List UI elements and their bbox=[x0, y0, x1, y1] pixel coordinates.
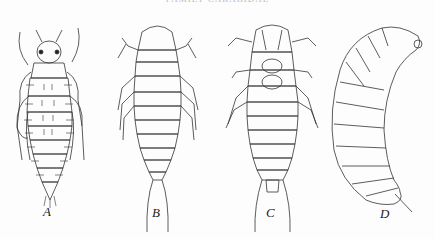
figure-label-b: B bbox=[152, 205, 160, 221]
larva-d-drawing bbox=[332, 27, 422, 212]
figure-plate: FAMILY CARABIDAE bbox=[0, 0, 435, 239]
figure-label-a: A bbox=[43, 204, 51, 220]
larva-a-drawing bbox=[17, 28, 84, 208]
illustration-canvas bbox=[0, 0, 435, 239]
larva-c-drawing bbox=[226, 25, 318, 232]
larva-b-drawing bbox=[118, 26, 198, 232]
figure-label-c: C bbox=[266, 205, 275, 221]
figure-label-d: D bbox=[380, 206, 389, 222]
